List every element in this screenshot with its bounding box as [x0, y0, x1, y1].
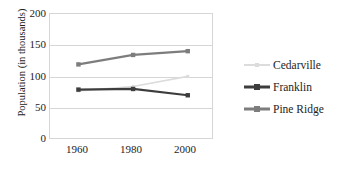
y-tick-label: 100 [16, 71, 46, 82]
x-tick-label: 2000 [174, 143, 196, 155]
x-tick-label: 1960 [66, 143, 88, 155]
plot-area [49, 13, 213, 139]
data-point [131, 53, 135, 57]
line-chart: Population (in thousands) 200 150 100 50… [0, 0, 350, 169]
legend-swatch-icon [244, 103, 270, 115]
data-point [76, 87, 80, 91]
chart-legend: Cedarville Franklin Pine Ridge [244, 54, 350, 120]
legend-item-cedarville[interactable]: Cedarville [244, 54, 350, 76]
legend-item-franklin[interactable]: Franklin [244, 76, 350, 98]
legend-label: Franklin [273, 81, 312, 93]
data-point [186, 75, 189, 78]
x-tick-label: 1980 [120, 143, 142, 155]
y-tick-label: 0 [16, 133, 46, 144]
series-container [50, 14, 214, 140]
data-point [186, 93, 190, 97]
y-tick-label: 150 [16, 39, 46, 50]
data-point [186, 49, 190, 53]
y-tick-label: 50 [16, 102, 46, 113]
chart-title [60, 0, 240, 1]
data-point [131, 87, 135, 91]
legend-swatch-icon [244, 59, 270, 71]
legend-label: Pine Ridge [273, 103, 324, 115]
x-axis-tick-labels: 1960 1980 2000 [49, 143, 213, 163]
legend-swatch-icon [244, 81, 270, 93]
y-axis-tick-labels: 200 150 100 50 0 [16, 0, 46, 169]
legend-label: Cedarville [273, 59, 321, 71]
y-tick-label: 200 [16, 8, 46, 19]
data-point [76, 62, 80, 66]
legend-item-pine-ridge[interactable]: Pine Ridge [244, 98, 350, 120]
